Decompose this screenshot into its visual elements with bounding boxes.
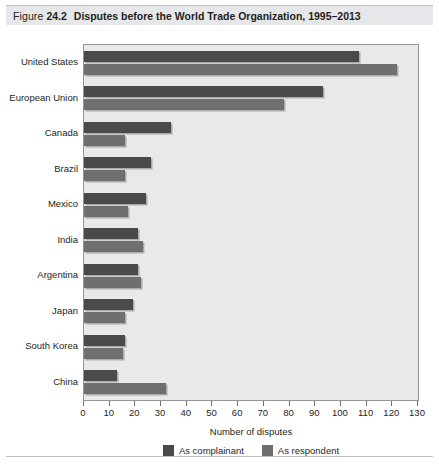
bar-respondent [84,206,128,217]
x-axis-tick [417,401,418,406]
legend-item-complainant[interactable]: As complainant [163,445,244,456]
figure-title-bar: Figure 24.2 Disputes before the World Tr… [6,5,433,25]
y-axis-tick-label: European Union [6,80,78,116]
x-axis-title: Number of disputes [83,426,419,437]
bar-group [84,223,418,259]
chart-area: United StatesEuropean UnionCanadaBrazilM… [6,30,433,458]
legend-label: As complainant [179,445,244,456]
x-axis-tick [314,401,315,406]
y-axis-tick-label: Japan [6,293,78,329]
figure-container: Figure 24.2 Disputes before the World Tr… [0,0,439,464]
plot-region [83,44,419,401]
x-axis-tick-label: 10 [103,407,114,418]
bar-complainant [84,193,146,204]
y-axis-tick-label: Brazil [6,151,78,187]
bar-respondent [84,241,143,252]
bar-group [84,365,418,401]
bar-group [84,45,418,81]
bar-group [84,81,418,117]
bottom-divider [6,456,433,457]
bar-complainant [84,51,359,62]
bar-respondent [84,135,125,146]
bar-complainant [84,370,117,381]
y-axis-tick-label: China [6,364,78,400]
x-axis-tick-label: 60 [232,407,243,418]
x-axis-tick-label: 130 [409,407,425,418]
x-axis-tick-label: 50 [206,407,217,418]
bar-complainant [84,335,125,346]
page-title: Disputes before the World Trade Organiza… [74,10,361,22]
y-axis-tick-label: United States [6,44,78,80]
bar-group [84,116,418,152]
bar-complainant [84,122,171,133]
bar-respondent [84,348,123,359]
bar-complainant [84,86,323,97]
x-axis-tick [289,401,290,406]
bar-respondent [84,277,141,288]
figure-number: 24.2 [46,10,66,22]
x-axis-tick [134,401,135,406]
legend-label: As respondent [278,445,339,456]
y-axis-tick-label: Canada [6,115,78,151]
x-axis-tick-label: 30 [155,407,166,418]
x-axis-tick-label: 70 [258,407,269,418]
x-axis-tick-label: 40 [180,407,191,418]
chart-legend: As complainantAs respondent [83,445,419,456]
x-axis-tick [237,401,238,406]
bar-rows [84,45,418,400]
x-axis-tick [83,401,84,406]
bar-complainant [84,157,151,168]
y-axis-tick-label: South Korea [6,328,78,364]
x-axis-tick [263,401,264,406]
y-axis-tick-label: Argentina [6,257,78,293]
legend-swatch-icon [262,445,273,456]
bar-complainant [84,299,133,310]
x-axis-tick-label: 100 [332,407,348,418]
x-axis-tick [160,401,161,406]
x-axis-tick [109,401,110,406]
y-axis-tick-label: Mexico [6,186,78,222]
x-axis-tick [366,401,367,406]
bar-group [84,258,418,294]
x-axis-tick [340,401,341,406]
x-axis-tick [211,401,212,406]
x-axis-tick [391,401,392,406]
bar-group [84,329,418,365]
bar-complainant [84,228,138,239]
bar-respondent [84,170,125,181]
bar-group [84,152,418,188]
x-axis-tick-label: 120 [383,407,399,418]
x-axis-tick-label: 90 [309,407,320,418]
x-axis-tick-label: 20 [129,407,140,418]
y-axis-labels: United StatesEuropean UnionCanadaBrazilM… [6,44,78,399]
legend-swatch-icon [163,445,174,456]
bar-respondent [84,312,125,323]
bar-respondent [84,64,397,75]
figure-label: Figure [13,10,43,22]
bar-group [84,294,418,330]
bar-group [84,187,418,223]
x-axis-tick-label: 80 [283,407,294,418]
bar-complainant [84,264,138,275]
x-axis-tick [186,401,187,406]
x-axis-tick-label: 110 [358,407,373,418]
legend-item-respondent[interactable]: As respondent [262,445,339,456]
bar-respondent [84,99,284,110]
bar-respondent [84,383,166,394]
y-axis-tick-label: India [6,222,78,258]
x-axis-tick-label: 0 [80,407,85,418]
